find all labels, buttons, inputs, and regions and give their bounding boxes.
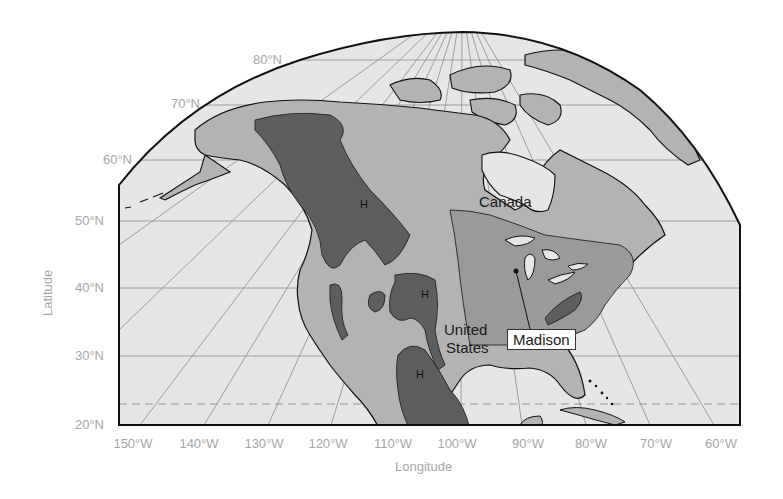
lat-tick-60n: 60°N — [72, 152, 132, 167]
map-canvas — [0, 0, 783, 499]
highlands-marker-north: H — [360, 198, 368, 210]
lat-tick-20n: 20°N — [44, 417, 104, 432]
lon-tick-110w: 110°W — [374, 436, 412, 451]
lon-tick-120w: 120°W — [308, 436, 347, 451]
lat-tick-30n: 30°N — [44, 348, 104, 363]
lon-tick-80w: 80°W — [575, 436, 607, 451]
label-canada: Canada — [479, 194, 532, 210]
lat-tick-80n: 80°N — [222, 52, 282, 67]
lon-tick-140w: 140°W — [179, 436, 218, 451]
x-axis-title: Longitude — [395, 459, 452, 474]
label-united-states-line1: United — [444, 322, 487, 338]
lon-tick-150w: 150°W — [113, 436, 152, 451]
lon-tick-70w: 70°W — [640, 436, 672, 451]
label-united-states-line2: States — [446, 340, 489, 356]
y-axis-title: Latitude — [40, 270, 55, 316]
lat-tick-70n: 70°N — [140, 96, 200, 111]
lat-tick-50n: 50°N — [44, 213, 104, 228]
highlands-marker-south: H — [416, 368, 424, 380]
label-madison: Madison — [507, 329, 576, 350]
lon-tick-130w: 130°W — [244, 436, 283, 451]
lon-tick-90w: 90°W — [512, 436, 544, 451]
highlands-marker-central: H — [421, 288, 429, 300]
lon-tick-60w: 60°W — [705, 436, 737, 451]
lon-tick-100w: 100°W — [437, 436, 476, 451]
